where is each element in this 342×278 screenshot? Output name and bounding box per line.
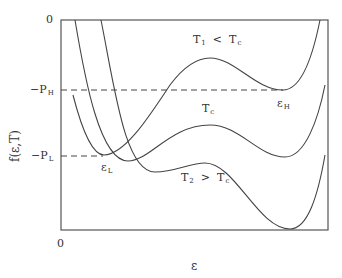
y-axis-label: f(ε,T): [8, 130, 22, 162]
diagram-canvas: [0, 0, 342, 278]
point-label-eps-H: εH: [277, 98, 290, 111]
curve-label-T1: T1 < Tc: [193, 34, 241, 47]
x-origin-tick: 0: [57, 238, 64, 249]
point-label-eps-L: εL: [101, 162, 112, 175]
level-label-PL: −PL: [31, 150, 53, 163]
x-axis-label: ε: [191, 260, 197, 272]
y-top-tick: 0: [46, 14, 53, 25]
plot-frame: [61, 20, 328, 230]
curve-label-T2: T2 > Tc: [181, 172, 229, 185]
curve-T2: [101, 20, 325, 229]
curve-label-Tc: Tc: [202, 103, 214, 116]
level-label-PH: −PH: [30, 84, 54, 97]
